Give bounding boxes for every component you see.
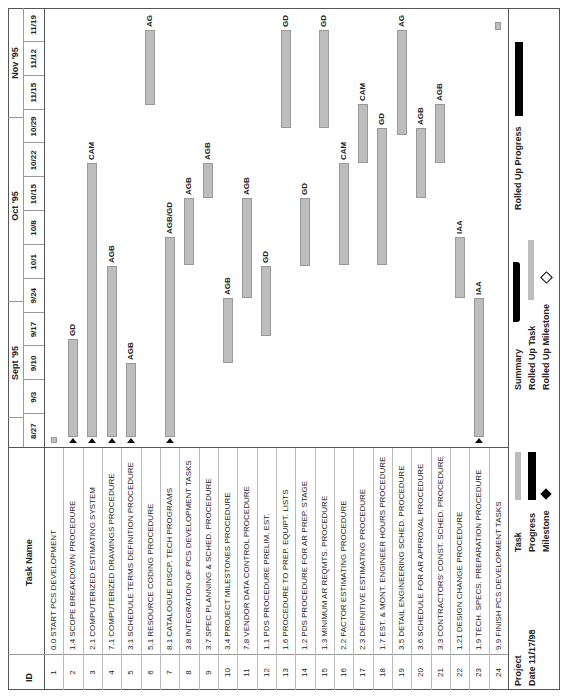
task-bar[interactable] <box>281 30 291 128</box>
task-id: 8 <box>184 655 193 690</box>
task-bar[interactable] <box>339 163 349 265</box>
task-name[interactable]: 1.1 PDS PROCEDURE PRELIM. EST. <box>262 514 271 650</box>
resource-label: AGB <box>184 177 193 195</box>
legend-milestone: Milestone <box>541 510 551 552</box>
task-bar[interactable] <box>495 22 501 30</box>
row-divider <box>199 448 200 690</box>
task-name-header[interactable]: Task Name <box>24 539 34 586</box>
task-id: 4 <box>107 655 116 690</box>
task-id: 16 <box>339 655 348 690</box>
task-id: 15 <box>320 655 329 690</box>
week-label: 10/15 <box>29 177 38 211</box>
task-name[interactable]: 1.2 PDS PROCEDURE FOR AR PREP. STAGE <box>300 481 309 650</box>
task-name[interactable]: 3.5 DETAIL ENGINEERING SCHED. PROCEDURE <box>397 466 406 650</box>
task-name[interactable]: 1.9 TECH. SPECS. PREPARATION PROCEDURE <box>474 470 483 650</box>
task-name[interactable]: 1.4 SCOPE BREAKDOWN PROCEDURE <box>68 501 77 650</box>
task-swatch <box>515 452 521 500</box>
task-id: 7 <box>165 655 174 690</box>
task-bar[interactable] <box>474 298 484 437</box>
task-bar[interactable] <box>261 266 271 336</box>
task-bar[interactable] <box>87 163 97 437</box>
task-bar[interactable] <box>377 128 387 265</box>
task-bar[interactable] <box>68 339 78 437</box>
task-bar[interactable] <box>455 237 465 298</box>
resource-label: AGB <box>107 245 116 263</box>
row-divider <box>218 448 219 690</box>
task-bar[interactable] <box>107 266 117 437</box>
task-bar[interactable] <box>397 30 407 135</box>
task-name[interactable]: 1.7 EST. & MONT. ENGINEER HOURS PROCEDUR… <box>378 457 387 650</box>
task-name[interactable]: 1.3 MINIMUM AR REQMTS. PROCEDURE <box>320 496 329 650</box>
task-name[interactable]: 3.3 CONTRACTORS' CONST. SCHED. PROCEDURE <box>436 456 445 650</box>
resource-label: GD <box>319 15 328 27</box>
task-id: 19 <box>397 655 406 690</box>
task-bar[interactable] <box>358 104 368 163</box>
task-id: 3 <box>88 655 97 690</box>
task-id: 2 <box>68 655 77 690</box>
task-name[interactable]: 8.1 CATALOGUE DISCP. TECH PROGRAMS <box>165 488 174 650</box>
task-bar[interactable] <box>319 30 329 128</box>
task-name[interactable]: 1.6 PROCEDURE TO PREP. EQUIPT. LISTS <box>281 490 290 651</box>
week-divider <box>23 345 44 346</box>
task-name[interactable]: 7.8 VENDOR DATA CONTROL PROCEDURE <box>242 486 251 650</box>
week-label: 10/22 <box>29 143 38 177</box>
task-name[interactable]: 1.21 DESIGN CHANGE PROCEDURE <box>455 512 464 650</box>
task-name[interactable]: 7.1 COMPUTERIZED DRAWINGS PROCEDURE <box>107 473 116 650</box>
task-name[interactable]: 3.6 SCHEDULE FOR AR APPROVAL PROCEDURE <box>416 464 425 650</box>
week-divider <box>23 379 44 380</box>
month-boundary <box>8 417 23 418</box>
task-name[interactable]: 3.1 SCHEDULE TERMS DEFINITION PROCEDURE <box>126 462 135 650</box>
row-divider <box>179 448 180 690</box>
resource-label: AGB/GD <box>165 202 174 234</box>
task-id: 9 <box>204 655 213 690</box>
task-bar[interactable] <box>145 30 155 105</box>
week-label: 9/10 <box>29 346 38 380</box>
row-divider <box>102 448 103 690</box>
resource-label: AGB <box>435 83 444 101</box>
task-name[interactable]: 5.1 RESOURCE CODING PROCEDURE <box>146 504 155 650</box>
rolled-up-task-swatch <box>528 240 534 300</box>
task-bar[interactable] <box>51 437 57 443</box>
month-sept: Sept '95 <box>10 308 20 418</box>
resource-label: AGB <box>203 142 212 160</box>
task-id: 24 <box>494 655 503 690</box>
legend-rolled-up-task: Rolled Up Task <box>527 326 537 390</box>
task-id: 20 <box>416 655 425 690</box>
row-divider <box>276 448 277 690</box>
task-name[interactable]: 2.1 COMPUTERIZED ESTIMATING SYSTEM <box>88 487 97 650</box>
week-label: 11/19 <box>29 8 38 42</box>
task-bar[interactable] <box>203 163 213 198</box>
task-name[interactable]: 3.4 PROJECT MILESTONES PROCEDURE <box>223 492 232 650</box>
resource-label: IAA <box>455 220 464 234</box>
summary-swatch <box>513 262 520 322</box>
task-name[interactable]: 2.3 DEFINITIVE ESTIMATING PROCEDURE <box>358 489 367 650</box>
task-id: 17 <box>358 655 367 690</box>
task-bar[interactable] <box>184 198 194 265</box>
week-label: 9/3 <box>29 380 38 414</box>
task-name[interactable]: 0.0 START PCS DEVELOPMENT <box>49 530 58 650</box>
resource-label: GD <box>281 15 290 27</box>
resource-label: AGB <box>242 177 251 195</box>
task-name[interactable]: 9.9 FINISH PCS DEVELOPMENT TASKS <box>494 502 503 651</box>
dependency-arrow-icon <box>166 438 174 443</box>
task-bar[interactable] <box>126 363 136 437</box>
dependency-arrow-icon <box>108 438 116 443</box>
task-bar[interactable] <box>223 298 233 363</box>
row-divider <box>469 448 470 690</box>
task-bar[interactable] <box>416 128 426 198</box>
task-name[interactable]: 2.2 FACTOR ESTIMATING PROCEDURE <box>339 500 348 650</box>
row-divider <box>295 448 296 690</box>
task-bar[interactable] <box>435 104 445 163</box>
task-bar[interactable] <box>242 198 252 298</box>
task-name[interactable]: 3.7 SPEC PLANNING & SCHED. PROCEDURE <box>204 478 213 650</box>
task-bar[interactable] <box>165 237 175 437</box>
task-id: 12 <box>262 655 271 690</box>
task-bar[interactable] <box>300 198 310 266</box>
week-divider <box>23 41 44 42</box>
legend: Project Date 11/17/98 Task Progress Mile… <box>508 8 561 690</box>
week-divider <box>23 142 44 143</box>
task-name[interactable]: 3.8 INTEGRATION OF PCS DEVELOPMENT TASKS <box>184 460 193 650</box>
week-label: 10/29 <box>29 110 38 144</box>
resource-label: GD <box>300 183 309 195</box>
task-id: 6 <box>146 655 155 690</box>
